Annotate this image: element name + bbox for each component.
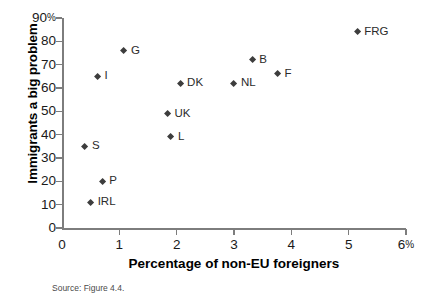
data-point-marker [94,73,101,80]
data-point-marker [354,28,361,35]
x-axis-tick [348,229,349,235]
source-note: Source: Figure 4.4. [52,283,124,293]
x-axis-tick-label: 0 [42,238,82,252]
data-point-marker [230,80,237,87]
data-point-label: P [109,174,117,186]
x-axis-tick-label: 5 [329,238,369,252]
data-point-label: F [285,67,292,79]
data-point-label: I [105,69,108,81]
data-point-marker [167,133,174,140]
data-point-marker [98,178,105,185]
data-point-label: B [259,53,267,65]
data-point-label: DK [187,76,203,88]
data-point-marker [176,80,183,87]
x-axis-tick-label: 1 [99,238,139,252]
data-point-label: G [131,44,140,56]
data-point-label: FRG [364,25,388,37]
data-point-marker [120,47,127,54]
y-axis-tick-label: 0 [0,221,56,235]
data-point-marker [87,199,94,206]
x-axis-tick [291,229,292,235]
plot-area: SIRLIPGUKLDKNLBFFRG [62,18,406,228]
data-point-marker [81,143,88,150]
x-axis-tick-label: 4 [271,238,311,252]
x-axis-tick [233,229,234,235]
scatter-chart-figure: 0102030405060708090% 0123456% SIRLIPGUKL… [0,0,421,299]
data-point-marker [164,110,171,117]
data-point-marker [249,56,256,63]
data-point-label: UK [174,107,190,119]
x-axis-title: Percentage of non-EU foreigners [62,256,406,271]
y-axis-title: Immigrants a big problem [25,4,40,204]
x-axis-percent-suffix: % [405,239,414,250]
data-point-label: S [92,139,100,151]
x-axis-tick-label: 6% [386,238,421,252]
data-point-label: L [178,130,184,142]
data-point-label: NL [241,76,256,88]
data-point-label: IRL [98,195,116,207]
x-axis-tick [405,229,406,235]
x-axis-tick-label: 3 [214,238,254,252]
data-point-marker [274,70,281,77]
y-axis-tick-value: 0 [4,221,56,235]
x-axis-tick [176,229,177,235]
x-axis-tick [119,229,120,235]
y-axis-percent-suffix: % [47,12,56,23]
x-axis-tick-label: 2 [157,238,197,252]
